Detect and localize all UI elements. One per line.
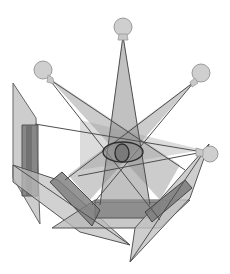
- diagram-canvas: [0, 0, 230, 274]
- bulb-left-icon: [34, 61, 54, 84]
- light-beams-diagram: [0, 0, 230, 274]
- bulb-top-icon: [114, 18, 132, 40]
- eye-iris-icon: [115, 144, 129, 162]
- bulb-right-icon: [190, 64, 210, 87]
